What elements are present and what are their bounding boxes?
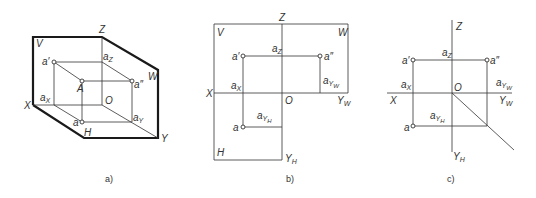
- label-Z: Z: [455, 21, 463, 32]
- label-YW: YW: [499, 95, 514, 107]
- caption-a: a): [105, 174, 113, 184]
- label-YH: YH: [453, 151, 466, 163]
- point-a: [241, 125, 245, 129]
- point-a: [411, 124, 415, 128]
- label-a-y: aY: [133, 112, 145, 124]
- label-X: X: [23, 100, 31, 111]
- label-O: O: [105, 95, 113, 106]
- label-Y: Y: [161, 133, 169, 144]
- point-a-prime: [241, 54, 245, 58]
- label-a-z: aZ: [442, 47, 453, 59]
- proj-line: [54, 62, 82, 81]
- label-a-x: aX: [401, 79, 412, 91]
- label-a-z: aZ: [272, 43, 283, 55]
- panel-b: Z V W H X O a′ a″ a aX aZ aYW aYH YW YH …: [205, 12, 352, 184]
- label-V: V: [217, 27, 225, 38]
- label-a-double-prime: a″: [490, 55, 500, 66]
- label-a-prime: a′: [402, 55, 411, 66]
- point-a: [80, 120, 84, 124]
- label-W: W: [338, 27, 349, 38]
- label-a-prime: a′: [42, 56, 51, 67]
- label-YH: YH: [285, 153, 298, 165]
- point-a-prime: [411, 58, 415, 62]
- label-a-prime: a′: [232, 51, 241, 62]
- panel-c: Z X O a′ a″ a aX aZ aYW aYH YW YH c): [387, 20, 514, 184]
- label-V: V: [36, 38, 44, 49]
- label-a-z: aZ: [103, 51, 114, 63]
- label-O: O: [454, 82, 462, 93]
- label-X: X: [389, 95, 397, 106]
- three-view-projection-figure: Z V W X Y H O a′ A a″ a aX aZ aY a) Z V …: [0, 0, 536, 198]
- label-a-yh: aYH: [430, 110, 445, 124]
- label-a: a: [73, 117, 79, 128]
- label-a-yw: aYW: [496, 77, 513, 91]
- label-H: H: [217, 147, 225, 158]
- label-a: a: [233, 122, 239, 133]
- point-a-double-prime: [485, 58, 489, 62]
- label-W: W: [148, 71, 159, 82]
- label-Z: Z: [98, 24, 106, 35]
- caption-c: c): [447, 174, 455, 184]
- label-a-double-prime: a″: [134, 79, 144, 90]
- label-a-x: aX: [231, 80, 242, 92]
- label-O: O: [285, 95, 293, 106]
- proj-line: [102, 62, 132, 81]
- label-YW: YW: [337, 95, 352, 107]
- label-A: A: [76, 83, 84, 94]
- label-a-x: aX: [40, 92, 51, 104]
- label-H: H: [84, 127, 92, 138]
- point-a-prime: [52, 60, 56, 64]
- label-a-double-prime: a″: [324, 51, 334, 62]
- label-Z: Z: [278, 12, 286, 23]
- label-a-yh: aYH: [257, 110, 272, 124]
- y-axis: [102, 105, 158, 138]
- label-X: X: [205, 88, 213, 99]
- label-a-yw: aYW: [323, 75, 340, 89]
- label-a: a: [404, 122, 410, 133]
- panel-a: Z V W X Y H O a′ A a″ a aX aZ aY a): [23, 24, 169, 184]
- point-a-double-prime: [318, 54, 322, 58]
- caption-b: b): [286, 174, 294, 184]
